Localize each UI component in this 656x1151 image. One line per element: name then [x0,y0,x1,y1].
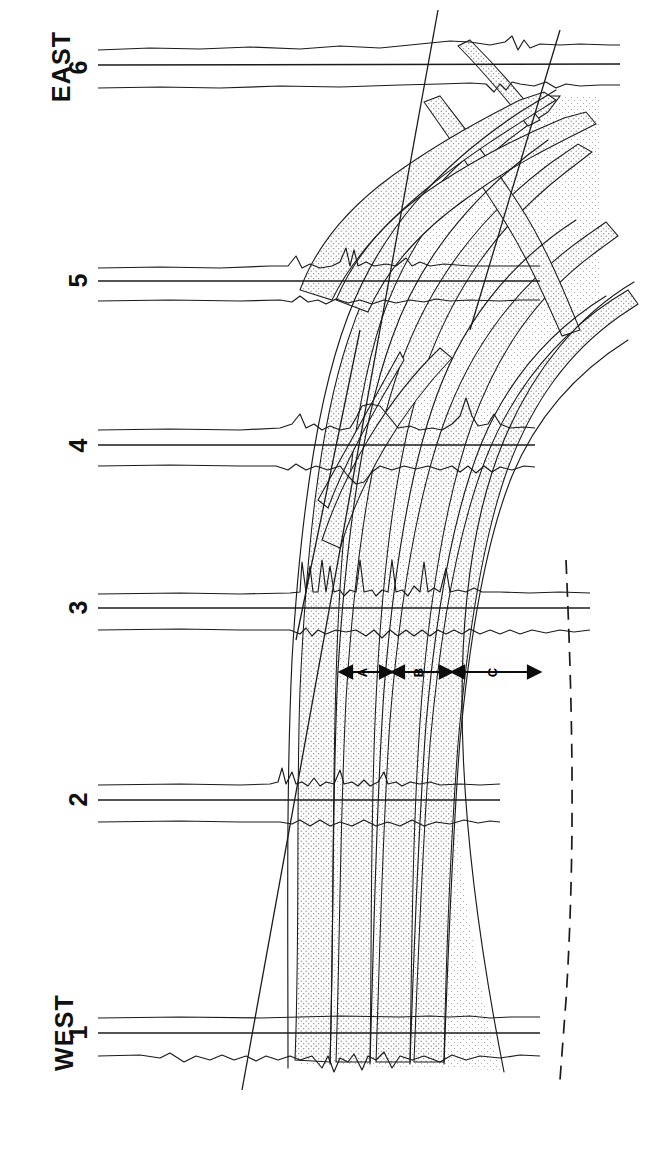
segment-label-b: B [411,668,426,677]
well-label-5: 5 [64,274,93,288]
well-label-1: 1 [64,1026,93,1040]
well-log-6 [98,36,620,92]
segment-label-c: C [485,668,500,677]
cross-section-drawing [0,0,656,1151]
cross-section-figure: EAST WEST 6 5 4 3 2 1 A B C [0,0,656,1151]
well-label-4: 4 [64,439,93,453]
well-label-2: 2 [64,793,93,807]
dashed-boundary [560,560,572,1080]
well-label-6: 6 [64,61,93,75]
well-label-3: 3 [64,601,93,615]
segment-label-a: A [355,668,370,677]
